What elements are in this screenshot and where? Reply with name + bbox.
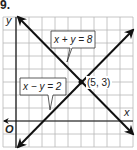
coordinate-graph: yxOx + y = 8x − y = 2(5, 3) xyxy=(0,0,137,150)
y-axis-label: y xyxy=(5,14,13,26)
callout-label-line-2: x − y = 2 xyxy=(22,81,62,92)
graph-labels: yxOx + y = 8x − y = 2(5, 3) xyxy=(5,14,130,135)
callout-label-line-1: x + y = 8 xyxy=(53,34,93,45)
origin-label: O xyxy=(5,123,14,135)
x-axis-label: x xyxy=(123,106,130,118)
intersection-label: (5, 3) xyxy=(87,77,110,88)
intersection-point xyxy=(79,80,84,85)
